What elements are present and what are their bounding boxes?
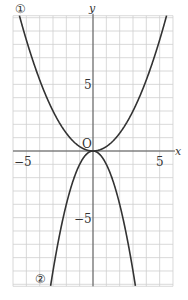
y-tick-neg5: −5 (74, 212, 92, 226)
y-axis-label: y (88, 2, 96, 15)
curve-2-label: ② (35, 272, 46, 286)
x-tick-pos5: 5 (156, 155, 164, 169)
x-axis-label: x (175, 145, 182, 158)
curve-1-label: ① (15, 2, 26, 16)
x-tick-neg5: −5 (14, 155, 32, 169)
parabola-chart: ① ② y x O −5 5 5 −5 (0, 0, 188, 300)
y-tick-pos5: 5 (84, 78, 92, 92)
origin-label: O (82, 137, 92, 151)
axes (13, 14, 175, 287)
